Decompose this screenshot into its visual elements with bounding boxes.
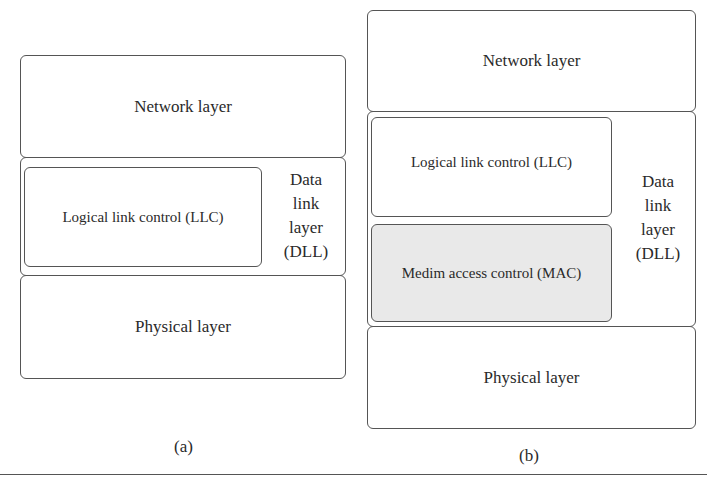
b-network-layer-label: Network layer <box>483 51 581 71</box>
a-llc-box: Logical link control (LLC) <box>24 167 262 267</box>
b-mac-label: Medim access control (MAC) <box>402 265 582 282</box>
bottom-divider <box>0 474 707 475</box>
b-physical-layer-label: Physical layer <box>484 368 580 388</box>
b-dll-line-1: Data <box>620 170 696 194</box>
b-dll-line-4: (DLL) <box>620 242 696 266</box>
b-llc-box: Logical link control (LLC) <box>371 117 612 217</box>
a-llc-label: Logical link control (LLC) <box>62 209 223 226</box>
b-dll-label: Data link layer (DLL) <box>620 170 696 266</box>
a-physical-layer-label: Physical layer <box>135 317 231 337</box>
a-dll-line-1: Data <box>268 168 344 192</box>
b-network-layer-box: Network layer <box>367 10 696 112</box>
a-dll-line-4: (DLL) <box>268 240 344 264</box>
a-caption: (a) <box>174 437 193 457</box>
a-dll-line-2: link <box>268 192 344 216</box>
a-physical-layer-box: Physical layer <box>20 275 346 379</box>
a-dll-line-3: layer <box>268 216 344 240</box>
b-dll-line-3: layer <box>620 218 696 242</box>
b-mac-box: Medim access control (MAC) <box>371 224 612 322</box>
b-physical-layer-box: Physical layer <box>367 326 696 429</box>
b-dll-line-2: link <box>620 194 696 218</box>
b-llc-label: Logical link control (LLC) <box>411 154 572 171</box>
a-network-layer-box: Network layer <box>20 55 346 158</box>
b-caption: (b) <box>519 446 539 466</box>
a-network-layer-label: Network layer <box>134 97 232 117</box>
a-dll-label: Data link layer (DLL) <box>268 168 344 264</box>
